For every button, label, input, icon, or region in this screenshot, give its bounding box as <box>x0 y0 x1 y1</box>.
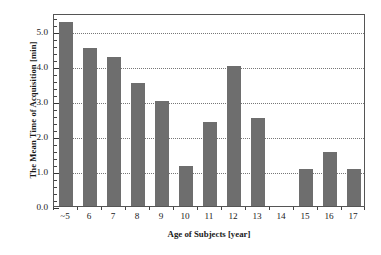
x-tick <box>125 207 126 210</box>
bar-chart-figure: The Mean Time of Acquisition [min] 0.01.… <box>0 0 381 255</box>
x-tick <box>269 207 270 210</box>
x-axis-title: Age of Subjects [year] <box>53 229 365 239</box>
x-axis-tick-labels: ~567891011121314151617 <box>53 211 365 227</box>
x-tick <box>197 207 198 210</box>
bar <box>347 169 361 206</box>
x-tick <box>221 207 222 210</box>
x-tick <box>341 207 342 210</box>
x-tick <box>149 207 150 210</box>
x-tick <box>173 207 174 210</box>
bar <box>299 169 313 206</box>
y-tick-label: 5.0 <box>14 27 48 37</box>
x-tick <box>293 207 294 210</box>
x-tick <box>53 207 54 210</box>
y-tick-label: 0.0 <box>14 202 48 212</box>
x-tick <box>364 207 365 210</box>
x-tick <box>77 207 78 210</box>
bar <box>227 66 241 206</box>
bar <box>203 122 217 206</box>
bar <box>251 118 265 206</box>
x-tick <box>101 207 102 210</box>
y-tick-label: 3.0 <box>14 97 48 107</box>
x-tick <box>317 207 318 210</box>
y-axis-tick-labels: 0.01.02.03.04.05.0 <box>14 14 48 207</box>
bar <box>323 152 337 206</box>
x-tick-label: 17 <box>333 211 373 221</box>
bar <box>155 101 169 206</box>
x-tick <box>245 207 246 210</box>
y-tick-label: 1.0 <box>14 167 48 177</box>
bar <box>179 166 193 206</box>
bar <box>107 57 121 206</box>
bars-layer <box>54 15 364 206</box>
plot-area <box>53 14 365 207</box>
bar <box>59 22 73 206</box>
bar <box>131 83 145 206</box>
y-tick-label: 2.0 <box>14 132 48 142</box>
y-tick-label: 4.0 <box>14 62 48 72</box>
bar <box>83 48 97 206</box>
